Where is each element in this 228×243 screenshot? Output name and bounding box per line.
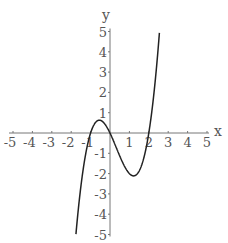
x-tick-label: -2: [62, 135, 75, 150]
x-axis-label: x: [214, 123, 222, 139]
y-tick-label: 3: [99, 65, 107, 80]
y-tick-label: 1: [99, 106, 107, 121]
y-tick-label: 2: [99, 85, 107, 100]
x-axis-ticks: -5-4-3-2-112345: [4, 131, 211, 150]
y-tick-label: -1: [94, 146, 107, 161]
y-tick-label: -5: [94, 228, 107, 243]
x-tick-label: 3: [164, 135, 172, 150]
x-tick-label: -5: [4, 135, 17, 150]
y-tick-label: -2: [94, 167, 107, 182]
y-axis-label: y: [101, 7, 110, 23]
y-tick-label: 5: [99, 25, 107, 40]
x-tick-label: 4: [183, 135, 191, 150]
x-tick-label: 1: [125, 135, 133, 150]
x-tick-label: -4: [23, 135, 36, 150]
y-tick-label: -4: [94, 207, 107, 222]
x-tick-label: 5: [203, 135, 211, 150]
x-tick-label: -3: [42, 135, 55, 150]
y-tick-label: 4: [99, 45, 107, 60]
function-plot: -5-4-3-2-112345 -5-4-3-2-112345 x y: [0, 0, 228, 243]
y-tick-label: -3: [94, 187, 107, 202]
